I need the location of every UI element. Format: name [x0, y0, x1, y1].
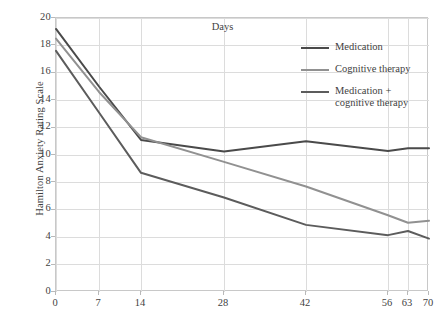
x-tick-label: 0 — [35, 297, 75, 308]
x-tick-mark — [387, 291, 388, 295]
x-tick-label: 7 — [78, 297, 118, 308]
legend-item: Medication — [301, 41, 433, 59]
x-tick-mark — [223, 291, 224, 295]
x-tick-mark — [140, 291, 141, 295]
x-tick-mark — [305, 291, 306, 295]
legend-label: Medication + cognitive therapy — [335, 85, 408, 109]
x-tick-mark — [98, 291, 99, 295]
x-tick-label: 70 — [408, 297, 445, 308]
legend: MedicationCognitive therapyMedication + … — [301, 41, 433, 115]
legend-swatch — [301, 47, 329, 49]
legend-item: Medication + cognitive therapy — [301, 85, 433, 111]
legend-swatch — [301, 69, 329, 71]
x-tick-label: 42 — [285, 297, 325, 308]
y-axis-title: Hamilton Anxiety Rating Scale — [34, 24, 45, 274]
x-tick-mark — [428, 291, 429, 295]
legend-item: Cognitive therapy — [301, 63, 433, 81]
x-axis: 07142842566370 — [0, 291, 445, 328]
x-axis-title: Days — [0, 21, 445, 32]
legend-label: Cognitive therapy — [335, 63, 411, 75]
line-chart: 02468101214161820 Hamilton Anxiety Ratin… — [0, 0, 445, 328]
x-tick-mark — [55, 291, 56, 295]
legend-swatch — [301, 91, 329, 93]
x-tick-label: 28 — [203, 297, 243, 308]
x-tick-label: 14 — [120, 297, 160, 308]
x-tick-mark — [407, 291, 408, 295]
legend-label: Medication — [335, 41, 383, 53]
